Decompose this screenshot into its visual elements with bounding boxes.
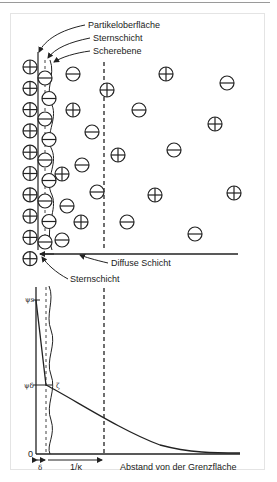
positive-ion-diffuse (74, 215, 88, 229)
positive-ion-diffuse (208, 117, 222, 131)
positive-ion-fixed (23, 188, 37, 202)
label-psi-delta: ψδ (24, 382, 34, 390)
label-zero: 0 (28, 449, 33, 459)
positive-ion-diffuse (148, 188, 162, 202)
positive-ion-fixed (23, 145, 37, 159)
positive-ion-fixed (23, 60, 37, 74)
negative-ion-stern (42, 174, 56, 188)
negative-ion-diffuse (66, 67, 80, 81)
positive-ion-diffuse (159, 67, 173, 81)
positive-ion-fixed (23, 252, 37, 266)
negative-ion-diffuse (188, 227, 202, 241)
x-axis-label: Abstand von der Grenzfläche (120, 462, 237, 472)
label-diffuse-layer: Diffuse Schicht (111, 258, 171, 268)
negative-ion-stern (38, 153, 52, 167)
positive-ion-fixed (23, 230, 37, 244)
negative-ion-stern (38, 235, 52, 249)
negative-ion-diffuse (75, 158, 89, 172)
positive-ion-fixed (23, 124, 37, 138)
negative-ion-diffuse (90, 185, 104, 199)
positive-ion-fixed (23, 103, 37, 117)
label-psi-s: ψs (25, 296, 34, 304)
double-layer-diagram: Partikeloberfläche Sternschicht Scherebe… (0, 0, 277, 482)
plot-shear-wavy-line (49, 286, 53, 454)
arrow-diffuse-layer (80, 255, 108, 263)
potential-curve (36, 300, 240, 453)
positive-ion-diffuse (227, 186, 241, 200)
negative-ion-stern (38, 194, 52, 208)
arrow-stern-layer-bottom (42, 257, 68, 279)
label-delta: δ (38, 464, 42, 472)
negative-ion-diffuse (55, 233, 69, 247)
negative-ion-stern (42, 133, 56, 147)
negative-ion-stern (38, 71, 52, 85)
label-zeta: ζ (56, 382, 60, 390)
negative-ion-diffuse (85, 125, 99, 139)
arrow-particle-surface (39, 25, 85, 52)
label-stern-layer: Sternschicht (93, 33, 143, 43)
negative-ion-diffuse (132, 103, 146, 117)
label-stern-layer-bottom: Sternschicht (70, 274, 120, 284)
positive-ion-fixed (23, 167, 37, 181)
positive-ion-fixed (23, 209, 37, 223)
label-debye-length: 1/κ (70, 462, 83, 472)
negative-ion-diffuse (60, 199, 74, 213)
negative-ion-stern (38, 112, 52, 126)
positive-ion-diffuse (111, 148, 125, 162)
negative-ion-stern (42, 215, 56, 229)
positive-ion-diffuse (100, 83, 114, 97)
negative-ion-diffuse (167, 143, 181, 157)
positive-ion-diffuse (66, 103, 80, 117)
negative-ion-diffuse (120, 215, 134, 229)
negative-ion-stern (42, 92, 56, 106)
arrow-shear-plane (54, 51, 90, 62)
ions-group (23, 60, 241, 266)
label-shear-plane: Scherebene (93, 46, 142, 56)
positive-ion-fixed (23, 81, 37, 95)
label-particle-surface: Partikeloberfläche (88, 20, 160, 30)
positive-ion-diffuse (55, 167, 69, 181)
negative-ion-diffuse (220, 76, 234, 90)
